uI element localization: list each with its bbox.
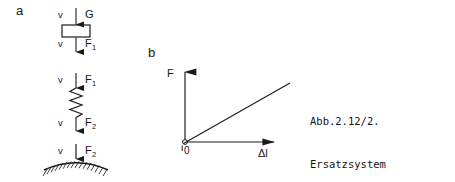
y-axis-label: F <box>167 67 174 79</box>
figure-canvas: a b v G v F 1 v <box>0 0 455 182</box>
figure-caption: Abb.2.12/2. Ersatzsystem a) Schnittbild … <box>310 86 417 182</box>
spring-characteristic-line <box>184 83 291 144</box>
x-axis-label: Δl <box>258 147 268 159</box>
caption-line-2: Ersatzsystem <box>310 157 417 171</box>
origin-label: 0 <box>184 145 190 156</box>
caption-line-1: Abb.2.12/2. <box>310 114 417 128</box>
